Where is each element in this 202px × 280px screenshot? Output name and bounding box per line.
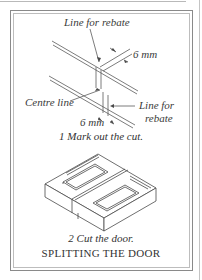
figure-title: SPLITTING THE DOOR bbox=[0, 247, 202, 259]
caption-step-2: 2 Cut the door. bbox=[0, 232, 202, 244]
